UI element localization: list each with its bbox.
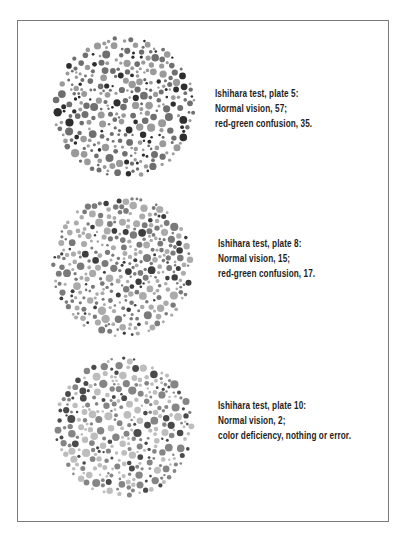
caption-normal-vision: Normal vision, 15; — [218, 251, 315, 266]
ishihara-dot-pattern — [52, 35, 196, 179]
ishihara-dot-pattern — [53, 356, 195, 498]
plate-5-caption: Ishihara test, plate 5: Normal vision, 5… — [215, 86, 312, 131]
caption-normal-vision: Normal vision, 2; — [218, 413, 351, 428]
ishihara-plate-8 — [50, 194, 194, 338]
caption-title: Ishihara test, plate 5: — [215, 86, 312, 101]
caption-deficiency: red-green confusion, 17. — [218, 266, 315, 281]
caption-title: Ishihara test, plate 8: — [218, 236, 315, 251]
plate-8-caption: Ishihara test, plate 8: Normal vision, 1… — [218, 236, 315, 281]
ishihara-plate-5 — [52, 35, 196, 179]
plate-10-caption: Ishihara test, plate 10: Normal vision, … — [218, 398, 351, 443]
ishihara-plate-10 — [53, 356, 195, 498]
caption-deficiency: color deficiency, nothing or error. — [218, 428, 351, 443]
ishihara-dot-pattern — [50, 194, 194, 338]
faint-caption-fragment — [19, 527, 59, 533]
caption-title: Ishihara test, plate 10: — [218, 398, 351, 413]
caption-normal-vision: Normal vision, 57; — [215, 101, 312, 116]
caption-deficiency: red-green confusion, 35. — [215, 116, 312, 131]
